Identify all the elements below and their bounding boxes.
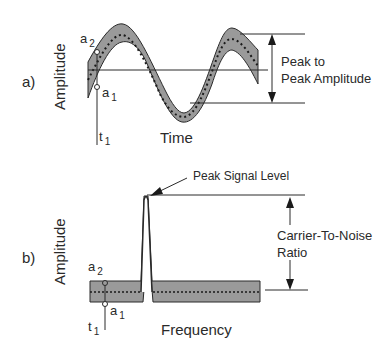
panel-a-time-marker: t1 <box>99 130 110 143</box>
panel-b-measure-line1: Carrier-To-Noise <box>277 229 372 242</box>
noise-band-b <box>90 196 260 302</box>
arrow-head-down-a <box>268 92 276 103</box>
point-a1-base: a <box>102 85 109 100</box>
point-a2-sub: 2 <box>97 266 103 277</box>
panel-b-x-axis-label: Frequency <box>161 322 232 337</box>
cn-arrow-head-down-b <box>286 279 294 290</box>
panel-b-measure-line2: Ratio <box>277 246 307 259</box>
panel-b-y-axis-label: Amplitude <box>52 218 67 285</box>
panel-a-point-a2: a2 <box>80 32 95 45</box>
panel-a-graphics <box>88 24 305 145</box>
point-a1-base: a <box>110 303 117 318</box>
point-a1-sub: 1 <box>111 92 117 103</box>
carrier-spike-b <box>141 197 152 293</box>
panel-a-measure-line1: Peak to <box>281 55 325 68</box>
t1-base: t <box>99 129 103 144</box>
t1-base: t <box>88 319 92 334</box>
panel-a-y-axis-label: Amplitude <box>52 43 67 110</box>
panel-b-label: b) <box>22 250 35 265</box>
panel-b-time-marker: t1 <box>88 320 99 333</box>
t1-sub: 1 <box>105 136 111 147</box>
point-a2-b <box>103 281 108 286</box>
point-a2-sub: 2 <box>89 38 95 49</box>
panel-a-measure-line2: Peak Amplitude <box>281 72 371 85</box>
panel-a-point-a1: a1 <box>102 86 117 99</box>
point-a2-a <box>95 50 100 55</box>
point-a1-sub: 1 <box>119 310 125 321</box>
point-a1-b <box>103 302 108 307</box>
t1-sub: 1 <box>94 326 100 337</box>
point-a2-base: a <box>80 31 87 46</box>
point-a2-base: a <box>88 259 95 274</box>
panel-b-point-a2: a2 <box>88 260 103 273</box>
cn-arrow-head-up-b <box>286 197 294 208</box>
arrow-head-up-a <box>268 34 276 45</box>
panel-a-label: a) <box>22 74 35 89</box>
panel-a-x-axis-label: Time <box>160 130 193 145</box>
point-a1-a <box>95 85 100 90</box>
panel-b-point-a1: a1 <box>110 304 125 317</box>
panel-b-peak-label: Peak Signal Level <box>193 170 289 182</box>
